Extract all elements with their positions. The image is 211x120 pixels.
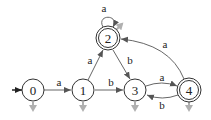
output-marker-icon xyxy=(116,24,122,30)
state-2: 2 xyxy=(96,26,120,50)
transition-label: a xyxy=(88,54,93,66)
transition-2-3: b xyxy=(113,50,133,79)
transition-label: a xyxy=(163,38,168,50)
automaton-diagram: a a b a b a b a 0 1 xyxy=(0,0,211,120)
state-label: 2 xyxy=(105,31,112,46)
transition-4-3: b xyxy=(147,95,178,111)
transition-1-3: b xyxy=(95,76,123,90)
transition-label: a xyxy=(160,71,165,83)
state-label: 0 xyxy=(30,83,37,98)
transition-0-1: a xyxy=(44,76,71,90)
state-3: 3 xyxy=(124,79,146,101)
transition-1-2: a xyxy=(88,50,103,80)
transition-label: a xyxy=(102,2,107,14)
transition-2-2: a xyxy=(102,2,115,27)
transition-label: a xyxy=(57,76,62,88)
state-0: 0 xyxy=(22,79,44,101)
transition-3-4: a xyxy=(146,71,177,86)
transition-label: b xyxy=(127,54,133,66)
state-label: 1 xyxy=(80,83,87,98)
transition-label: b xyxy=(108,76,114,88)
state-4: 4 xyxy=(177,78,201,102)
state-label: 3 xyxy=(132,83,139,98)
transition-label: b xyxy=(159,99,165,111)
state-label: 4 xyxy=(186,83,193,98)
state-1: 1 xyxy=(72,79,94,101)
